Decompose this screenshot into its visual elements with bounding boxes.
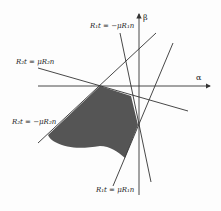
friction-cone-diagram: β α R₁t = −μR₁n R₂t = μR₂n R₂t = −μR₂n R… — [0, 0, 221, 211]
label-r1t-pos: R₁t = μR₁n — [96, 186, 134, 194]
label-r2t-pos: R₂t = μR₂n — [16, 58, 54, 66]
shaded-region — [48, 86, 138, 158]
diagram-canvas — [0, 0, 221, 211]
alpha-axis-label: α — [196, 73, 201, 82]
label-r2t-neg: R₂t = −μR₂n — [12, 118, 56, 126]
beta-axis-label: β — [143, 13, 148, 22]
label-r1t-neg: R₁t = −μR₁n — [90, 22, 134, 30]
